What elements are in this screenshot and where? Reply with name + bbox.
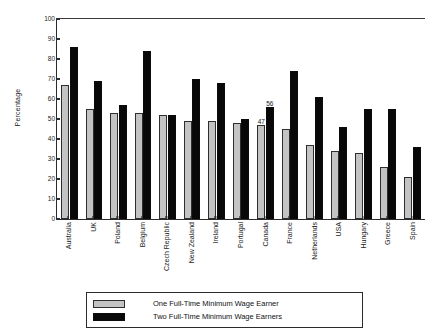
x-axis-tick-mark — [362, 216, 363, 220]
bar — [315, 97, 323, 219]
bar: 47 — [257, 125, 265, 219]
x-axis-category-label: New Zealand — [187, 222, 194, 263]
x-axis-category-label: UK — [89, 222, 96, 232]
legend-swatch-one-earner — [93, 300, 125, 308]
plot-area: 0102030405060708090100 4756 — [56, 18, 425, 220]
y-axis-tick-label: 60 — [48, 96, 57, 103]
x-axis-category: Ireland — [203, 220, 228, 290]
bar-group — [82, 19, 107, 219]
bar — [404, 177, 412, 219]
bar — [184, 121, 192, 219]
legend-label-one-earner: One Full-Time Minimum Wage Earner — [153, 299, 279, 308]
x-axis-category: Poland — [105, 220, 130, 290]
y-axis-tick-label: 80 — [48, 56, 57, 63]
x-axis-category: Czech Republic — [154, 220, 179, 290]
x-axis-tick-mark — [338, 216, 339, 220]
y-axis-tick-label: 10 — [48, 196, 57, 203]
bar-series-container: 4756 — [57, 19, 425, 219]
x-axis-tick-mark — [411, 216, 412, 220]
x-axis-category-label: France — [286, 222, 293, 244]
bar — [94, 81, 102, 219]
bar — [86, 109, 94, 219]
x-axis-category-label: Australia — [65, 222, 72, 249]
bar — [241, 119, 249, 219]
bar — [119, 105, 127, 219]
bar-group: 4756 — [253, 19, 278, 219]
x-axis-category: Portugal — [228, 220, 253, 290]
chart-legend: One Full-Time Minimum Wage Earner Two Fu… — [86, 292, 363, 328]
bar — [355, 153, 363, 219]
bar — [61, 85, 69, 219]
x-axis-category-label: Ireland — [212, 222, 219, 243]
legend-item: One Full-Time Minimum Wage Earner — [93, 297, 356, 310]
bar — [217, 83, 225, 219]
y-axis-tick-label: 100 — [44, 16, 57, 23]
y-axis-tick-label: 30 — [48, 156, 57, 163]
x-axis-tick-mark — [92, 216, 93, 220]
x-axis-category: USA — [326, 220, 351, 290]
x-axis-category: Spain — [399, 220, 424, 290]
bar — [208, 121, 216, 219]
x-axis-category: Belgium — [130, 220, 155, 290]
x-axis-category-label: Czech Republic — [163, 222, 170, 271]
x-axis-category: New Zealand — [179, 220, 204, 290]
x-axis-category: Canada — [252, 220, 277, 290]
bar-group — [302, 19, 327, 219]
legend-label-two-earners: Two Full-Time Minimum Wage Earners — [153, 312, 282, 321]
bar — [380, 167, 388, 219]
x-axis-category: France — [277, 220, 302, 290]
x-axis-tick-mark — [288, 216, 289, 220]
x-axis-category: Hungary — [350, 220, 375, 290]
x-axis-category: Netherlands — [301, 220, 326, 290]
bar — [159, 115, 167, 219]
bar — [290, 71, 298, 219]
y-axis-tick-label: 40 — [48, 136, 57, 143]
x-axis-category-label: USA — [335, 222, 342, 236]
x-axis-tick-mark — [190, 216, 191, 220]
bar — [135, 113, 143, 219]
x-axis-category-label: Netherlands — [310, 222, 317, 260]
y-axis-title: Percentage — [14, 63, 21, 153]
x-axis-tick-mark — [117, 216, 118, 220]
x-axis-tick-mark — [239, 216, 240, 220]
bar-group — [400, 19, 425, 219]
bar-group — [131, 19, 156, 219]
y-axis-tick-label: 20 — [48, 176, 57, 183]
bar-value-label: 47 — [258, 118, 265, 125]
bar — [143, 51, 151, 219]
bar — [282, 129, 290, 219]
bar-group — [57, 19, 82, 219]
bar — [331, 151, 339, 219]
x-axis-tick-mark — [166, 216, 167, 220]
bar — [110, 113, 118, 219]
x-axis-category-label: Belgium — [138, 222, 145, 247]
bar-group — [327, 19, 352, 219]
bar-group — [180, 19, 205, 219]
x-axis-categories: AustraliaUKPolandBelgiumCzech RepublicNe… — [56, 220, 424, 290]
x-axis-category: Australia — [56, 220, 81, 290]
y-axis-tick-label: 90 — [48, 36, 57, 43]
bar — [413, 147, 421, 219]
bar — [306, 145, 314, 219]
x-axis-category-label: Hungary — [359, 222, 366, 248]
bar-group — [204, 19, 229, 219]
x-axis-category-label: Portugal — [236, 222, 243, 248]
x-axis-tick-mark — [215, 216, 216, 220]
x-axis-tick-mark — [264, 216, 265, 220]
bar-value-label: 56 — [266, 100, 273, 107]
y-axis-tick-label: 50 — [48, 116, 57, 123]
x-axis-category: Greece — [375, 220, 400, 290]
bar — [192, 79, 200, 219]
x-axis-category-label: Canada — [261, 222, 268, 247]
x-axis-tick-mark — [141, 216, 142, 220]
bar-group — [278, 19, 303, 219]
legend-item: Two Full-Time Minimum Wage Earners — [93, 310, 356, 323]
bar-group — [155, 19, 180, 219]
bar-group — [376, 19, 401, 219]
bar — [388, 109, 396, 219]
bar-group — [351, 19, 376, 219]
legend-swatch-two-earners — [93, 313, 125, 321]
x-axis-tick-mark — [68, 216, 69, 220]
x-axis-category: UK — [81, 220, 106, 290]
x-axis-tick-mark — [387, 216, 388, 220]
